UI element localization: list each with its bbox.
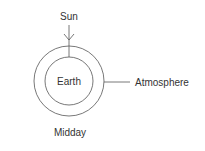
sun-label: Sun [60, 11, 78, 22]
caption-label: Midday [54, 127, 86, 138]
sun-ray-arrow-icon [64, 25, 74, 57]
earth-atmosphere-diagram: Sun Earth Atmosphere Midday [0, 0, 205, 151]
earth-label: Earth [57, 76, 81, 87]
atmosphere-label: Atmosphere [135, 77, 189, 88]
